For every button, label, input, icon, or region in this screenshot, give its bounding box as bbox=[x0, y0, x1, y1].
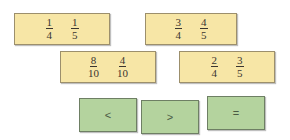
numerator: 4 bbox=[119, 55, 127, 67]
fraction: 8 10 bbox=[88, 55, 99, 79]
denominator: 4 bbox=[176, 29, 182, 41]
denominator: 5 bbox=[237, 67, 243, 79]
fraction-card-1[interactable]: 1 4 1 5 bbox=[14, 13, 110, 45]
numerator: 3 bbox=[236, 55, 244, 67]
fraction: 3 5 bbox=[236, 55, 244, 79]
fraction-card-3[interactable]: 8 10 4 10 bbox=[60, 51, 156, 83]
fraction-card-2[interactable]: 3 4 4 5 bbox=[145, 13, 237, 45]
denominator: 5 bbox=[201, 29, 207, 41]
numerator: 2 bbox=[211, 55, 219, 67]
fraction: 4 5 bbox=[200, 17, 208, 41]
numerator: 1 bbox=[71, 17, 79, 29]
numerator: 4 bbox=[200, 17, 208, 29]
denominator: 4 bbox=[47, 29, 53, 41]
denominator: 4 bbox=[212, 67, 218, 79]
fraction: 4 10 bbox=[117, 55, 128, 79]
less-than-button[interactable]: < bbox=[79, 98, 137, 132]
numerator: 3 bbox=[175, 17, 183, 29]
equal-button[interactable]: = bbox=[207, 96, 265, 130]
denominator: 10 bbox=[117, 67, 128, 79]
fraction-card-4[interactable]: 2 4 3 5 bbox=[179, 51, 275, 83]
fraction: 1 5 bbox=[71, 17, 79, 41]
denominator: 10 bbox=[88, 67, 99, 79]
numerator: 1 bbox=[46, 17, 54, 29]
greater-than-button[interactable]: > bbox=[141, 100, 199, 134]
fraction: 1 4 bbox=[46, 17, 54, 41]
denominator: 5 bbox=[72, 29, 78, 41]
fraction: 3 4 bbox=[175, 17, 183, 41]
fraction: 2 4 bbox=[211, 55, 219, 79]
numerator: 8 bbox=[90, 55, 98, 67]
